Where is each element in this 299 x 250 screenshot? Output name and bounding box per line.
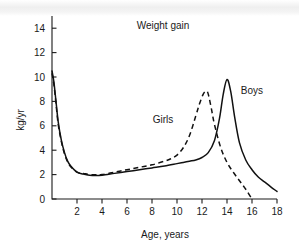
x-tick-label: 10	[171, 206, 183, 217]
y-tick-label: 10	[34, 72, 46, 83]
x-tick-label: 12	[196, 206, 208, 217]
y-tick-label: 0	[39, 194, 45, 205]
chart-figure: 24681012141618 02468101214 Weight gain A…	[0, 0, 299, 250]
weight-gain-line-chart: 24681012141618 02468101214 Weight gain A…	[0, 0, 299, 250]
series-annotation-boys: Boys	[241, 85, 263, 96]
chart-title: Weight gain	[137, 20, 190, 31]
x-tick-label: 6	[124, 206, 130, 217]
series-annotation-girls: Girls	[153, 114, 174, 125]
x-axis-tick-labels: 24681012141618	[74, 206, 283, 217]
y-tick-label: 6	[39, 120, 45, 131]
axis-lines	[52, 13, 277, 199]
y-tick-label: 2	[39, 169, 45, 180]
y-tick-label: 14	[34, 23, 46, 34]
series-line-girls	[52, 73, 252, 199]
header-band	[0, 0, 299, 16]
x-tick-label: 16	[246, 206, 258, 217]
x-axis-ticks	[77, 199, 277, 204]
y-tick-label: 4	[39, 145, 45, 156]
x-tick-label: 18	[271, 206, 283, 217]
x-tick-label: 2	[74, 206, 80, 217]
y-axis-label: kg/yr	[15, 108, 26, 130]
y-tick-label: 12	[34, 47, 46, 58]
x-tick-label: 4	[99, 206, 105, 217]
x-axis-label: Age, years	[141, 229, 189, 240]
x-tick-label: 14	[221, 206, 233, 217]
x-tick-label: 8	[149, 206, 155, 217]
y-axis-ticks	[52, 28, 57, 199]
y-tick-label: 8	[39, 96, 45, 107]
y-axis-tick-labels: 02468101214	[34, 23, 46, 205]
